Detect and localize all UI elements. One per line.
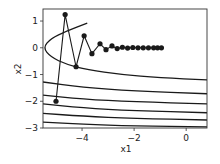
trajectory-point bbox=[82, 33, 87, 38]
y-tick-label: −1 bbox=[25, 70, 38, 80]
y-tick-label: 1 bbox=[32, 16, 38, 26]
x-tick-label: −2 bbox=[127, 133, 140, 143]
trajectory-point bbox=[89, 51, 94, 56]
trajectory-point bbox=[120, 45, 125, 50]
trajectory-point bbox=[53, 99, 58, 104]
trajectory-point bbox=[73, 64, 78, 69]
trajectory-point bbox=[109, 43, 114, 48]
y-tick-label: 0 bbox=[32, 43, 38, 53]
trajectory-point bbox=[103, 47, 108, 52]
y-axis-ticks: 10−1−2−3 bbox=[25, 16, 43, 133]
trajectory-point bbox=[141, 45, 146, 50]
trajectory-point bbox=[159, 45, 164, 50]
x-axis-ticks: −4−20 bbox=[75, 128, 189, 143]
x-tick-label: −4 bbox=[75, 133, 89, 143]
y-tick-label: −3 bbox=[25, 123, 38, 133]
trajectory-point bbox=[130, 45, 135, 50]
gradient-descent-chart: −4−20 10−1−2−3 x1 x2 bbox=[0, 0, 220, 164]
trajectory-point bbox=[63, 12, 68, 17]
y-axis-label: x2 bbox=[13, 63, 23, 74]
trajectory-point bbox=[135, 45, 140, 50]
trajectory-point bbox=[115, 46, 120, 51]
trajectory-point bbox=[97, 41, 102, 46]
trajectory-point bbox=[125, 45, 130, 50]
trajectory-point bbox=[146, 45, 151, 50]
x-axis-label: x1 bbox=[120, 144, 131, 154]
x-tick-label: 0 bbox=[183, 133, 189, 143]
y-tick-label: −2 bbox=[25, 96, 38, 106]
